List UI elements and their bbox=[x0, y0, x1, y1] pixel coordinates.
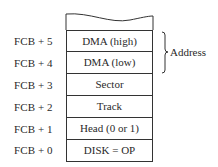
field-cell: DMA (low) bbox=[66, 52, 153, 74]
offset-label: FCB + 1 bbox=[14, 118, 62, 140]
field-cell: Head (0 or 1) bbox=[66, 118, 153, 140]
offset-label: FCB + 0 bbox=[14, 139, 62, 161]
field-cell: Track bbox=[66, 96, 153, 118]
offset-label: FCB + 4 bbox=[14, 52, 62, 74]
offset-label: FCB + 2 bbox=[14, 96, 62, 118]
offset-label: FCB + 5 bbox=[14, 30, 62, 52]
offset-label: FCB + 3 bbox=[14, 74, 62, 96]
brace-icon bbox=[162, 32, 168, 73]
field-cell: DMA (high) bbox=[66, 30, 153, 52]
wavy-top-edge bbox=[66, 14, 153, 21]
field-cell: DISK = OP bbox=[66, 140, 153, 162]
field-cell: Sector bbox=[66, 74, 153, 96]
address-brace-label: Address bbox=[170, 46, 206, 58]
fcb-memory-layout-diagram: FCB + 5 DMA (high) FCB + 4 DMA (low) FCB… bbox=[0, 0, 218, 167]
